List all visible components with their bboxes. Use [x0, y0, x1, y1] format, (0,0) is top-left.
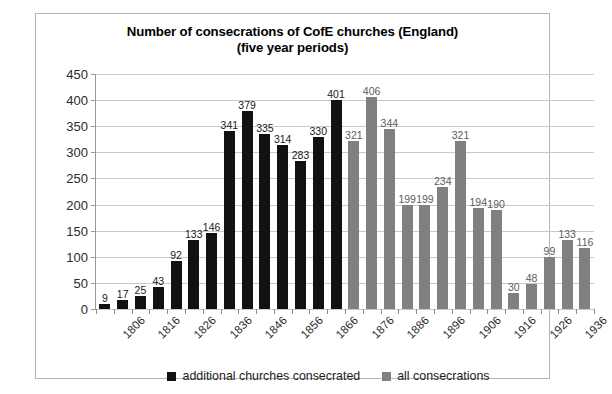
- chart-title-main: Number of consecrations of CofE churches…: [36, 24, 549, 40]
- bar-slot: 9: [96, 74, 114, 309]
- y-axis-tick-label: 100: [66, 249, 88, 264]
- bar-value-label: 344: [381, 117, 399, 129]
- bar[interactable]: 344: [384, 129, 395, 309]
- bar[interactable]: 335: [259, 134, 270, 309]
- bar[interactable]: 146: [206, 233, 217, 309]
- bar-slot: 314: [274, 74, 292, 309]
- bar[interactable]: 43: [153, 287, 164, 309]
- bar-slot: 199: [398, 74, 416, 309]
- x-axis-tick-label: 1876: [369, 314, 396, 341]
- bar[interactable]: 234: [437, 187, 448, 309]
- bar-value-label: 146: [203, 221, 221, 233]
- bar-slot: 344: [381, 74, 399, 309]
- bar-value-label: 335: [256, 122, 274, 134]
- bar-value-label: 25: [135, 284, 147, 296]
- bar-value-label: 133: [558, 228, 576, 240]
- bar[interactable]: 283: [295, 161, 306, 309]
- bar[interactable]: 199: [402, 205, 413, 309]
- bar-value-label: 116: [577, 236, 594, 248]
- bar-slot: 234: [434, 74, 452, 309]
- y-axis-tick-label: 450: [66, 67, 88, 82]
- chart-title-subtitle: (five year periods): [36, 40, 549, 56]
- x-axis-tick-label: 1806: [120, 314, 147, 341]
- bar-value-label: 30: [508, 281, 520, 293]
- bar-slot: 335: [256, 74, 274, 309]
- bar-slot: 30: [505, 74, 523, 309]
- chart-legend: additional churches consecratedall conse…: [36, 369, 612, 383]
- bar[interactable]: 133: [188, 240, 199, 309]
- bar[interactable]: 321: [348, 141, 359, 309]
- y-axis-tick-label: 0: [81, 302, 88, 317]
- bar-slot: 321: [452, 74, 470, 309]
- bar-slot: 406: [363, 74, 381, 309]
- bar-value-label: 92: [170, 249, 182, 261]
- bar-value-label: 379: [238, 99, 256, 111]
- bar-slot: 133: [185, 74, 203, 309]
- bar[interactable]: 133: [562, 240, 573, 309]
- bar-value-label: 321: [345, 129, 363, 141]
- bar-value-label: 283: [292, 149, 310, 161]
- bar-group: 9172543921331463413793353142833304013214…: [96, 74, 594, 309]
- bar-slot: 194: [469, 74, 487, 309]
- bar-slot: 146: [203, 74, 221, 309]
- bar[interactable]: 92: [171, 261, 182, 309]
- x-axis-labels: 1806181618261836184618561866187618861896…: [96, 314, 594, 364]
- bar-value-label: 190: [487, 198, 505, 210]
- bar-value-label: 43: [152, 275, 164, 287]
- bar[interactable]: 314: [277, 145, 288, 309]
- bar-slot: 133: [558, 74, 576, 309]
- bar[interactable]: 199: [419, 205, 430, 309]
- bar[interactable]: 379: [242, 111, 253, 309]
- bar[interactable]: 116: [579, 248, 590, 309]
- legend-swatch-icon: [382, 372, 391, 381]
- x-axis-tick-label: 1846: [263, 314, 290, 341]
- legend-item[interactable]: additional churches consecrated: [167, 369, 360, 383]
- bar-value-label: 330: [309, 125, 327, 137]
- x-axis-tick-label: 1836: [227, 314, 254, 341]
- bar-slot: 283: [292, 74, 310, 309]
- legend-label: additional churches consecrated: [182, 369, 360, 383]
- bar[interactable]: 48: [526, 284, 537, 309]
- bar-value-label: 199: [416, 193, 434, 205]
- x-axis-tick-label: 1866: [334, 314, 361, 341]
- bar-slot: 379: [238, 74, 256, 309]
- bar[interactable]: 330: [313, 137, 324, 309]
- bar-slot: 43: [149, 74, 167, 309]
- bar[interactable]: 341: [224, 131, 235, 309]
- y-axis-tick-label: 250: [66, 171, 88, 186]
- bar-slot: 190: [487, 74, 505, 309]
- x-axis-tick-label: 1816: [156, 314, 183, 341]
- bar-slot: 48: [523, 74, 541, 309]
- y-axis-tick-label: 400: [66, 93, 88, 108]
- bar[interactable]: 17: [117, 300, 128, 309]
- bar[interactable]: 30: [508, 293, 519, 309]
- bar[interactable]: 401: [331, 100, 342, 309]
- bar[interactable]: 194: [473, 208, 484, 309]
- bar-slot: 99: [541, 74, 559, 309]
- bar[interactable]: 321: [455, 141, 466, 309]
- bar-slot: 92: [167, 74, 185, 309]
- bar-slot: 116: [576, 74, 594, 309]
- y-axis-tick-label: 200: [66, 197, 88, 212]
- x-axis-tick-label: 1906: [476, 314, 503, 341]
- chart-title: Number of consecrations of CofE churches…: [36, 24, 549, 56]
- bar-slot: 401: [327, 74, 345, 309]
- legend-label: all consecrations: [397, 369, 489, 383]
- legend-swatch-icon: [167, 372, 176, 381]
- bar[interactable]: 99: [544, 257, 555, 309]
- bar-slot: 341: [220, 74, 238, 309]
- bar[interactable]: 25: [135, 296, 146, 309]
- bar-value-label: 321: [452, 129, 470, 141]
- bar-value-label: 99: [544, 245, 556, 257]
- chart-frame: Number of consecrations of CofE churches…: [35, 13, 550, 379]
- x-axis-tick-label: 1886: [405, 314, 432, 341]
- y-axis-tick-label: 50: [74, 275, 88, 290]
- bar[interactable]: 190: [491, 210, 502, 309]
- x-axis-tick-label: 1916: [512, 314, 539, 341]
- bar-value-label: 314: [274, 133, 292, 145]
- legend-item[interactable]: all consecrations: [382, 369, 489, 383]
- y-axis-tick-label: 350: [66, 119, 88, 134]
- bar-value-label: 199: [398, 193, 416, 205]
- bar-value-label: 48: [526, 272, 538, 284]
- bar[interactable]: 406: [366, 97, 377, 309]
